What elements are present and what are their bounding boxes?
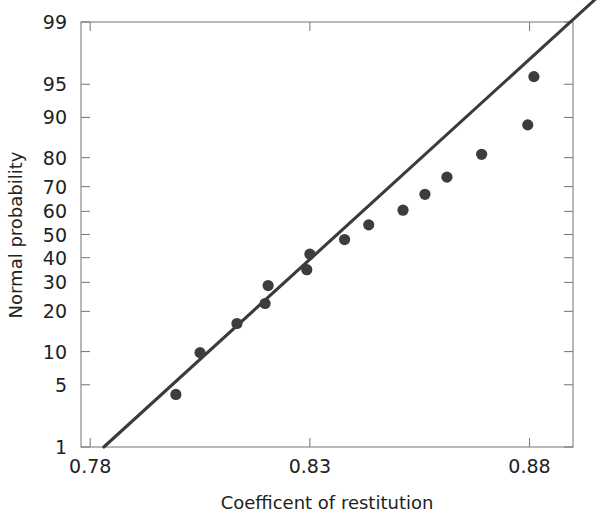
y-tick-label: 10	[43, 341, 67, 363]
y-tick-label: 95	[43, 73, 67, 95]
y-tick-label: 40	[43, 247, 67, 269]
chart-canvas: 151020304050607080909599 0.780.830.88 Co…	[0, 0, 600, 525]
y-tick-label: 60	[43, 200, 67, 222]
data-point	[259, 298, 270, 309]
data-point	[301, 264, 312, 275]
data-point	[476, 149, 487, 160]
data-point	[522, 119, 533, 130]
y-tick-label: 20	[43, 300, 67, 322]
data-point	[397, 205, 408, 216]
data-point	[304, 249, 315, 260]
y-tick-label: 80	[43, 147, 67, 169]
data-point	[263, 280, 274, 291]
data-point	[441, 172, 452, 183]
y-tick-label: 1	[55, 436, 67, 458]
y-tick-label: 30	[43, 271, 67, 293]
y-tick-label: 5	[55, 374, 67, 396]
data-point	[363, 219, 374, 230]
x-tick-label: 0.78	[69, 455, 111, 477]
x-tick-label: 0.83	[289, 455, 331, 477]
y-tick-label: 90	[43, 106, 67, 128]
data-point	[194, 347, 205, 358]
data-point	[419, 189, 430, 200]
data-point	[170, 389, 181, 400]
data-point	[339, 234, 350, 245]
y-tick-label: 50	[43, 224, 67, 246]
x-tick-label: 0.88	[508, 455, 550, 477]
y-tick-label: 99	[43, 11, 67, 33]
x-axis-title: Coefficent of restitution	[221, 492, 434, 513]
y-tick-label: 70	[43, 176, 67, 198]
data-point	[231, 318, 242, 329]
data-point	[528, 71, 539, 82]
y-axis-title: Normal probability	[5, 151, 26, 318]
normal-probability-plot-figure: 151020304050607080909599 0.780.830.88 Co…	[0, 0, 600, 525]
